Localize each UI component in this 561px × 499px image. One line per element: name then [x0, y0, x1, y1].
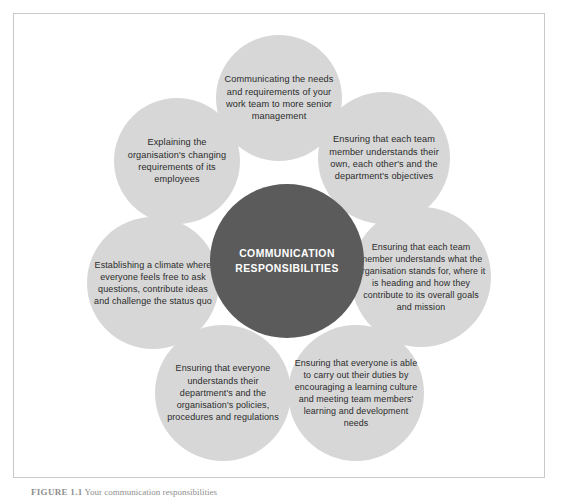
figure-caption-number: FIGURE 1.1 [31, 487, 83, 497]
center-hub-circle: COMMUNICATION RESPONSIBILITIES [210, 184, 364, 338]
petal-label-right: Ensuring that each team member understan… [351, 241, 491, 314]
petal-label-bottom-left: Ensuring that everyone understands their… [155, 362, 291, 423]
petal-label-bottom-right: Ensuring that everyone is able to carry … [288, 357, 424, 430]
petal-circle-bottom-left: Ensuring that everyone understands their… [155, 325, 291, 461]
petal-label-top: Communicating the needs and requirements… [216, 73, 342, 123]
petal-circle-left: Establishing a climate where everyone fe… [87, 217, 219, 349]
petal-label-top-left: Explaining the organisation's changing r… [114, 136, 240, 186]
figure-caption-text: Your communication responsibilities [84, 487, 217, 497]
petal-label-left: Establishing a climate where everyone fe… [87, 259, 219, 308]
petal-circle-top-left: Explaining the organisation's changing r… [114, 98, 240, 224]
petal-circle-bottom-right: Ensuring that everyone is able to carry … [288, 325, 424, 461]
center-hub-label: COMMUNICATION RESPONSIBILITIES [210, 246, 364, 276]
communication-responsibilities-diagram: Communicating the needs and requirements… [14, 14, 546, 479]
figure-caption: FIGURE 1.1 Your communication responsibi… [31, 487, 531, 498]
figure-frame: Communicating the needs and requirements… [13, 13, 545, 478]
petal-label-top-right: Ensuring that each team member understan… [318, 133, 450, 183]
